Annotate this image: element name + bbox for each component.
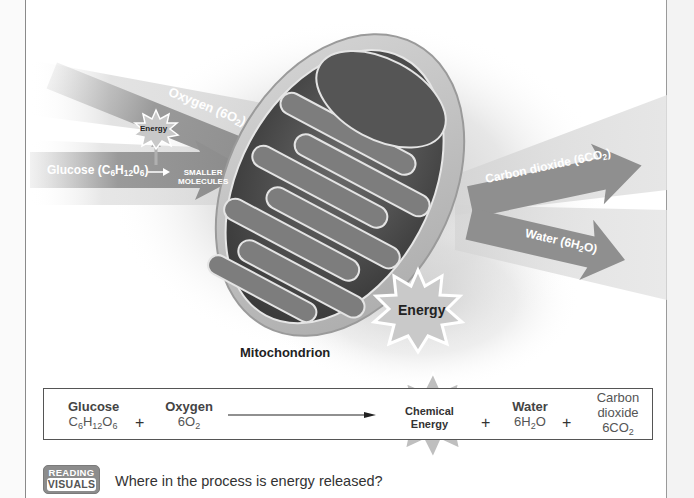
plus-sign: + <box>135 414 144 432</box>
smaller-molecules-label: SMALLER MOLECULES <box>178 168 228 186</box>
equation-carbon-dioxide: Carbon dioxide 6CO2 <box>588 390 648 440</box>
energy-star-label: Energy <box>398 302 445 318</box>
glucose-label: Glucose (C6H1206) <box>47 163 148 178</box>
plus-sign: + <box>562 414 571 432</box>
mitochondrion-label: Mitochondrion <box>240 345 330 360</box>
reaction-arrow <box>228 410 378 420</box>
chemical-energy-label: Chemical Energy <box>405 405 454 431</box>
reading-visuals-badge: READING VISUALS <box>43 465 100 494</box>
reading-visuals-question: Where in the process is energy released? <box>115 473 383 489</box>
plus-sign: + <box>481 414 490 432</box>
equation-oxygen: Oxygen 6O2 <box>164 399 214 434</box>
equation-water: Water 6H2O <box>500 399 560 434</box>
small-energy-label: Energy <box>140 124 167 133</box>
equation-glucose: Glucose C6H12O6 <box>68 399 118 434</box>
